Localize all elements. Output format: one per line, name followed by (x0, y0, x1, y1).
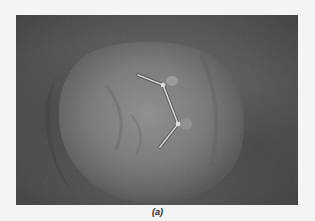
figure: (a) (0, 0, 315, 221)
heart-photo-illustration (16, 15, 298, 205)
figure-caption: (a) (0, 207, 315, 217)
photograph (16, 15, 298, 205)
